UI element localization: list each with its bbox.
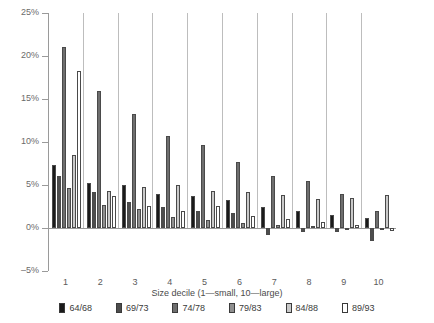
bar (321, 222, 325, 228)
y-tick (42, 271, 48, 272)
legend-label: 89/93 (352, 303, 375, 313)
zero-baseline (48, 228, 396, 229)
bar (276, 225, 280, 228)
legend-label: 69/73 (126, 303, 149, 313)
y-axis-label: 0% (5, 223, 39, 232)
y-axis-label: 10% (5, 137, 39, 146)
bar (132, 114, 136, 228)
group-separator (83, 13, 84, 228)
bar (296, 211, 300, 228)
bar (301, 228, 305, 232)
bar (335, 228, 339, 232)
bar (370, 228, 374, 241)
bar (147, 206, 151, 228)
y-axis-label: –5% (5, 266, 39, 275)
x-axis-tick-label: 10 (359, 277, 399, 287)
bar (137, 209, 141, 228)
bar (241, 223, 245, 228)
plot-area (48, 13, 396, 271)
group-separator (361, 13, 362, 228)
legend-swatch-icon (116, 303, 122, 313)
legend-item[interactable]: 89/93 (342, 303, 375, 313)
group-separator (292, 13, 293, 228)
bar (390, 228, 394, 231)
legend-item[interactable]: 69/73 (116, 303, 149, 313)
bar (226, 200, 230, 228)
bar (306, 181, 310, 228)
legend-item[interactable]: 84/88 (286, 303, 319, 313)
bar (350, 198, 354, 228)
bar (87, 183, 91, 228)
legend-swatch-icon (342, 303, 348, 313)
bar (375, 211, 379, 228)
legend-item[interactable]: 64/68 (59, 303, 92, 313)
bar (281, 195, 285, 228)
y-axis-label: 20% (5, 51, 39, 60)
legend-label: 74/78 (182, 303, 205, 313)
legend-swatch-icon (59, 303, 65, 313)
bar (97, 91, 101, 228)
y-tick (42, 185, 48, 186)
chart-legend: 64/6869/7374/7879/8384/8889/93 (0, 303, 434, 313)
bar (112, 196, 116, 228)
legend-item[interactable]: 79/83 (229, 303, 262, 313)
bar (286, 219, 290, 228)
bar (345, 228, 349, 230)
bar (311, 226, 315, 228)
bar (166, 136, 170, 228)
legend-label: 84/88 (296, 303, 319, 313)
y-axis-label: 5% (5, 180, 39, 189)
y-tick (42, 142, 48, 143)
bar (380, 228, 384, 230)
bar (181, 211, 185, 228)
bar (261, 207, 265, 229)
bar-chart: 25%20%15%10%5%0%–5% 12345678910 Size dec… (0, 0, 434, 323)
bar (191, 196, 195, 228)
bar (122, 185, 126, 228)
bar (340, 194, 344, 228)
bar (57, 176, 61, 228)
group-separator (326, 13, 327, 228)
bar (251, 216, 255, 228)
bar (385, 195, 389, 228)
legend-swatch-icon (229, 303, 235, 313)
group-separator (222, 13, 223, 228)
y-tick (42, 99, 48, 100)
bar (107, 191, 111, 228)
y-axis-label: 15% (5, 94, 39, 103)
y-axis-line (48, 13, 49, 271)
y-tick (42, 56, 48, 57)
bar (316, 199, 320, 228)
bar (231, 213, 235, 228)
legend-label: 64/68 (69, 303, 92, 313)
bar (171, 217, 175, 228)
y-tick (42, 228, 48, 229)
bar (355, 225, 359, 228)
bar (246, 192, 250, 228)
bar (201, 145, 205, 228)
bar (206, 220, 210, 228)
group-separator (257, 13, 258, 228)
y-axis-label: 25% (5, 8, 39, 17)
bar (176, 185, 180, 228)
y-tick (42, 13, 48, 14)
legend-item[interactable]: 74/78 (172, 303, 205, 313)
group-separator (152, 13, 153, 228)
bar (266, 228, 270, 235)
bar (72, 155, 76, 228)
bar (216, 206, 220, 228)
bar (62, 47, 66, 228)
bar (142, 187, 146, 228)
bar (211, 191, 215, 228)
bar (365, 218, 369, 228)
bar (127, 202, 131, 228)
legend-swatch-icon (172, 303, 178, 313)
legend-label: 79/83 (239, 303, 262, 313)
x-axis-title: Size decile (1—small, 10—large) (0, 288, 434, 298)
bar (161, 207, 165, 229)
legend-swatch-icon (286, 303, 292, 313)
bar (67, 188, 71, 228)
group-separator (187, 13, 188, 228)
bar (196, 211, 200, 228)
bar (77, 71, 81, 228)
